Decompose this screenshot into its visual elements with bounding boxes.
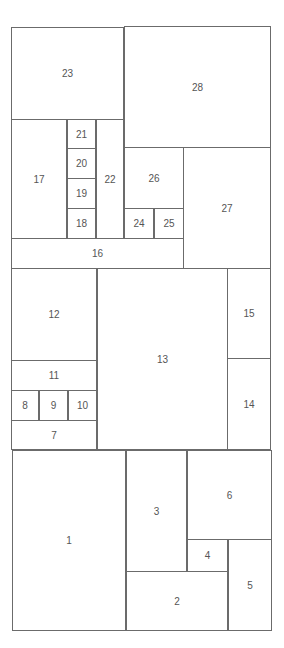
cell-6: 6 (187, 450, 272, 540)
cell-label: 8 (22, 400, 28, 411)
cell-15: 15 (227, 268, 271, 359)
cell-label: 18 (76, 218, 87, 229)
cell-23: 23 (11, 27, 124, 120)
cell-label: 9 (51, 400, 57, 411)
cell-label: 20 (76, 158, 87, 169)
cell-16: 16 (11, 238, 184, 269)
cell-1: 1 (12, 450, 126, 631)
cell-20: 20 (67, 148, 96, 179)
cell-19: 19 (67, 178, 96, 209)
cell-24: 24 (124, 208, 154, 239)
cell-label: 1 (66, 535, 72, 546)
cell-14: 14 (227, 358, 271, 450)
cell-13: 13 (97, 268, 228, 450)
cell-26: 26 (124, 147, 184, 209)
cell-label: 3 (154, 506, 160, 517)
cell-21: 21 (67, 119, 96, 149)
cell-label: 25 (163, 218, 174, 229)
cell-12: 12 (11, 268, 97, 361)
cell-label: 10 (77, 400, 88, 411)
cell-label: 4 (205, 550, 211, 561)
cell-label: 22 (104, 174, 115, 185)
cell-label: 6 (227, 490, 233, 501)
cell-label: 11 (49, 370, 59, 381)
cell-28: 28 (124, 26, 271, 148)
cell-label: 2 (174, 596, 180, 607)
cell-label: 13 (157, 354, 168, 365)
cell-label: 28 (192, 82, 203, 93)
cell-4: 4 (187, 539, 228, 572)
cell-11: 11 (11, 360, 97, 391)
cell-2: 2 (126, 571, 228, 631)
cell-label: 19 (76, 188, 87, 199)
cell-label: 15 (243, 308, 254, 319)
cell-22: 22 (96, 119, 124, 239)
cell-5: 5 (228, 539, 272, 631)
cell-7: 7 (11, 420, 97, 450)
cell-27: 27 (183, 147, 271, 269)
cell-label: 17 (33, 174, 44, 185)
cell-18: 18 (67, 208, 96, 239)
cell-8: 8 (11, 390, 39, 421)
cell-label: 24 (133, 218, 144, 229)
partition-diagram: 1234567891011121314151617181920212223242… (0, 0, 284, 648)
cell-label: 23 (62, 68, 73, 79)
cell-label: 26 (148, 173, 159, 184)
cell-label: 12 (48, 309, 59, 320)
cell-10: 10 (68, 390, 97, 421)
cell-label: 14 (243, 399, 254, 410)
cell-label: 5 (247, 580, 253, 591)
cell-17: 17 (11, 119, 67, 239)
cell-3: 3 (126, 450, 187, 572)
cell-25: 25 (154, 208, 184, 239)
cell-label: 16 (92, 248, 103, 259)
cell-label: 27 (221, 203, 232, 214)
cell-9: 9 (39, 390, 68, 421)
cell-label: 7 (51, 430, 57, 441)
cell-label: 21 (76, 129, 87, 140)
